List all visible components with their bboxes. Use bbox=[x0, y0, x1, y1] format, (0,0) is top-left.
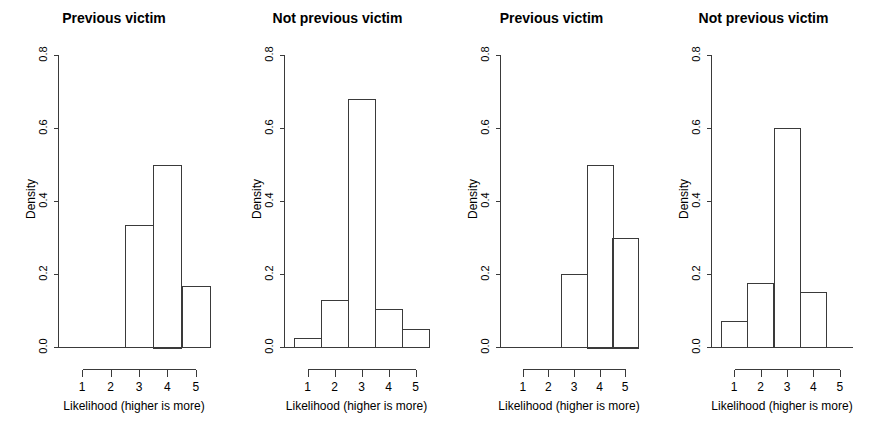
histogram-panel: Not previous victim0.00.20.40.60.812345D… bbox=[228, 0, 447, 431]
y-axis-tick-label: 0.2 bbox=[37, 258, 49, 288]
histogram-bar bbox=[154, 166, 182, 349]
y-axis-label: Density bbox=[250, 164, 264, 234]
x-axis-tick-label: 3 bbox=[777, 380, 797, 394]
y-axis-label: Density bbox=[677, 164, 691, 234]
y-axis-tick-label: 0.4 bbox=[690, 185, 702, 215]
histogram-bar bbox=[376, 310, 403, 348]
histogram-bar bbox=[748, 284, 774, 348]
x-axis-tick-label: 5 bbox=[406, 380, 426, 394]
histogram-bar bbox=[322, 301, 349, 348]
y-axis-tick-label: 0.6 bbox=[479, 112, 491, 142]
y-axis-tick-label: 0.4 bbox=[479, 185, 491, 215]
histogram-bar bbox=[775, 129, 801, 348]
x-axis-tick-label: 3 bbox=[352, 380, 372, 394]
histogram-bar bbox=[403, 330, 430, 348]
x-axis-label: Likelihood (higher is more) bbox=[488, 399, 650, 413]
histogram-bar bbox=[722, 322, 748, 348]
y-axis-tick-label: 0.2 bbox=[690, 258, 702, 288]
x-axis-tick-label: 1 bbox=[72, 380, 92, 394]
x-axis-tick-label: 5 bbox=[186, 380, 206, 394]
x-axis-tick-label: 3 bbox=[564, 380, 584, 394]
histogram-bar bbox=[562, 275, 588, 348]
y-axis-tick-label: 0.8 bbox=[263, 39, 275, 69]
y-axis-tick-label: 0.0 bbox=[690, 331, 702, 361]
x-axis-tick-label: 4 bbox=[803, 380, 823, 394]
y-axis-tick-label: 0.0 bbox=[37, 331, 49, 361]
histogram-bar bbox=[183, 287, 211, 348]
x-axis-tick-label: 5 bbox=[830, 380, 850, 394]
y-axis-label: Density bbox=[466, 164, 480, 234]
histogram-panel: Previous victim0.00.20.40.60.812345Densi… bbox=[447, 0, 656, 431]
y-axis-tick-label: 0.6 bbox=[263, 112, 275, 142]
histogram-bar bbox=[349, 100, 376, 348]
y-axis-tick-label: 0.6 bbox=[37, 112, 49, 142]
x-axis-tick-label: 2 bbox=[751, 380, 771, 394]
y-axis-tick-label: 0.8 bbox=[37, 39, 49, 69]
histogram-bar bbox=[613, 239, 639, 349]
y-axis-tick-label: 0.2 bbox=[479, 258, 491, 288]
x-axis-tick-label: 2 bbox=[538, 380, 558, 394]
histogram-panel: Not previous victim0.00.20.40.60.812345D… bbox=[656, 0, 871, 431]
x-axis-tick-label: 4 bbox=[590, 380, 610, 394]
x-axis-tick-label: 1 bbox=[513, 380, 533, 394]
y-axis-tick-label: 0.4 bbox=[263, 185, 275, 215]
y-axis-tick-label: 0.4 bbox=[37, 185, 49, 215]
y-axis-label: Density bbox=[24, 164, 38, 234]
y-axis-tick-label: 0.0 bbox=[263, 331, 275, 361]
histogram-bar bbox=[801, 293, 827, 348]
x-axis-tick-label: 5 bbox=[615, 380, 635, 394]
histogram-bar bbox=[126, 226, 154, 348]
y-axis-tick-label: 0.2 bbox=[263, 258, 275, 288]
x-axis-tick-label: 1 bbox=[298, 380, 318, 394]
histogram-figure: Previous victim0.00.20.40.60.812345Densi… bbox=[0, 0, 871, 431]
x-axis-tick-label: 3 bbox=[129, 380, 149, 394]
y-axis-tick-label: 0.8 bbox=[690, 39, 702, 69]
histogram-panel: Previous victim0.00.20.40.60.812345Densi… bbox=[0, 0, 228, 431]
x-axis-label: Likelihood (higher is more) bbox=[272, 399, 441, 413]
x-axis-tick-label: 2 bbox=[101, 380, 121, 394]
histogram-bar bbox=[295, 339, 322, 348]
histogram-bar bbox=[588, 166, 614, 349]
y-axis-tick-label: 0.0 bbox=[479, 331, 491, 361]
y-axis-tick-label: 0.8 bbox=[479, 39, 491, 69]
x-axis-label: Likelihood (higher is more) bbox=[46, 399, 222, 413]
x-axis-tick-label: 2 bbox=[325, 380, 345, 394]
x-axis-tick-label: 4 bbox=[157, 380, 177, 394]
x-axis-label: Likelihood (higher is more) bbox=[699, 399, 865, 413]
x-axis-tick-label: 1 bbox=[724, 380, 744, 394]
y-axis-tick-label: 0.6 bbox=[690, 112, 702, 142]
x-axis-tick-label: 4 bbox=[379, 380, 399, 394]
